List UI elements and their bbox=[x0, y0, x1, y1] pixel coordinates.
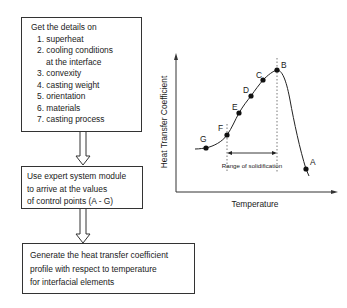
diagram-canvas: Heat Transfer Coefficient Temperature Ra… bbox=[0, 0, 347, 308]
point-f bbox=[224, 132, 229, 137]
x-axis-label: Temperature bbox=[231, 199, 278, 209]
point-a bbox=[303, 166, 308, 171]
y-axis-label: Heat Transfer Coefficient bbox=[159, 75, 169, 168]
solidification-guides bbox=[227, 58, 277, 172]
point-d bbox=[248, 93, 253, 98]
flow-arrow-1-icon bbox=[76, 132, 90, 165]
control-points bbox=[203, 67, 308, 171]
point-label-b: B bbox=[281, 60, 287, 70]
y-axis-arrow-icon bbox=[174, 53, 178, 60]
point-label-a: A bbox=[310, 157, 316, 167]
x-axis-arrow-icon bbox=[331, 190, 338, 194]
range-label: Range of solidification bbox=[222, 162, 283, 169]
flow-arrow-2-icon bbox=[76, 209, 90, 243]
graph-axes bbox=[176, 57, 334, 192]
point-g bbox=[203, 145, 208, 150]
point-label-g: G bbox=[200, 134, 207, 144]
point-label-e: E bbox=[232, 102, 238, 112]
heat-transfer-curve bbox=[195, 70, 309, 176]
point-label-d: D bbox=[243, 85, 249, 95]
point-b bbox=[274, 67, 279, 72]
point-label-f: F bbox=[218, 123, 223, 133]
point-label-c: C bbox=[256, 70, 262, 80]
range-arrow-icon bbox=[227, 151, 277, 155]
